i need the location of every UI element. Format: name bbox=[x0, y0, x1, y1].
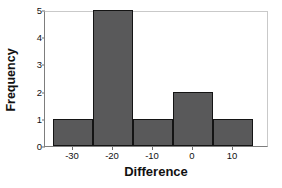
x-tick-label: -10 bbox=[145, 151, 159, 161]
histogram-bar bbox=[53, 119, 93, 146]
y-axis-title: Frequency bbox=[0, 0, 22, 160]
plot-frame bbox=[44, 11, 268, 147]
y-tick-label: 2 bbox=[26, 88, 42, 98]
y-tick-label: 5 bbox=[26, 6, 42, 16]
histogram-bar bbox=[213, 119, 253, 146]
histogram-chart: Frequency 012345 -30-20-10010 Difference bbox=[0, 0, 282, 188]
x-axis-title: Difference bbox=[44, 164, 268, 179]
x-tick-label: -30 bbox=[65, 151, 79, 161]
y-tick-label: 0 bbox=[26, 142, 42, 152]
y-tick-label: 4 bbox=[26, 33, 42, 43]
y-axis-ticks: 012345 bbox=[22, 0, 42, 160]
histogram-bar bbox=[93, 10, 133, 146]
histogram-bar bbox=[133, 119, 173, 146]
x-axis-ticks: -30-20-10010 bbox=[44, 147, 268, 163]
y-tick-label: 1 bbox=[26, 115, 42, 125]
x-tick-label: 0 bbox=[189, 151, 194, 161]
x-tick-label: -20 bbox=[105, 151, 119, 161]
y-tick-label: 3 bbox=[26, 61, 42, 71]
plot-area bbox=[45, 12, 267, 146]
y-axis-title-label: Frequency bbox=[4, 48, 18, 111]
histogram-bar bbox=[173, 92, 213, 146]
x-tick-label: 10 bbox=[227, 151, 238, 161]
